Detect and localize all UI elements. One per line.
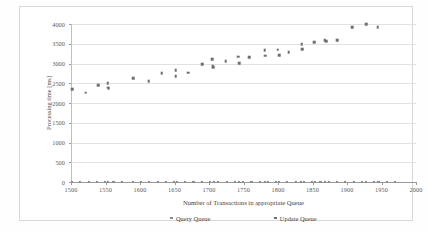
- data-point: [314, 180, 316, 182]
- data-point: [107, 181, 109, 183]
- gridline: [72, 83, 416, 84]
- data-point: [160, 72, 163, 75]
- data-point: [365, 180, 367, 182]
- legend-marker-icon: [170, 217, 173, 220]
- x-tick-label: 1550: [99, 186, 112, 193]
- x-tick-label: 1850: [306, 186, 319, 193]
- x-tick-mark: [347, 182, 348, 185]
- data-point: [276, 48, 279, 51]
- y-tick-mark: [69, 143, 71, 144]
- data-point: [263, 49, 266, 52]
- x-tick-mark: [382, 182, 383, 185]
- data-point: [87, 180, 89, 182]
- gridline: [72, 162, 416, 163]
- y-tick-mark: [69, 24, 71, 25]
- y-tick-label: 0: [62, 179, 65, 186]
- data-point: [96, 181, 98, 183]
- x-tick-mark: [313, 182, 314, 185]
- data-point: [156, 181, 158, 183]
- x-tick-label: 2000: [410, 186, 423, 193]
- gridline: [72, 143, 416, 144]
- data-point: [303, 180, 305, 182]
- x-tick-label: 1800: [272, 186, 285, 193]
- data-point: [336, 39, 339, 42]
- plot-area: [71, 24, 416, 182]
- x-tick-mark: [209, 182, 210, 185]
- y-tick-label: 3500: [52, 40, 65, 47]
- x-tick-mark: [140, 182, 141, 185]
- data-point: [97, 84, 100, 87]
- y-tick-label: 3000: [52, 60, 65, 67]
- data-point: [147, 80, 150, 83]
- data-point: [107, 82, 110, 85]
- x-tick-label: 1900: [341, 186, 354, 193]
- gridline: [72, 64, 416, 65]
- x-tick-label: 1950: [375, 186, 388, 193]
- data-point: [237, 55, 240, 58]
- x-axis-title: Number of Transactions in appropriate Qu…: [71, 199, 416, 206]
- data-point: [132, 77, 135, 80]
- data-point: [248, 56, 251, 59]
- data-point: [325, 40, 328, 43]
- data-point: [373, 181, 375, 183]
- legend-marker-icon: [274, 217, 277, 220]
- data-point: [225, 181, 227, 183]
- x-tick-mark: [278, 182, 279, 185]
- gridline: [72, 103, 416, 104]
- data-point: [394, 180, 396, 182]
- data-point: [287, 51, 290, 54]
- data-point: [217, 180, 219, 182]
- data-point: [184, 181, 186, 183]
- data-point: [187, 71, 190, 74]
- legend-item-update-queue[interactable]: Update Queue: [274, 215, 316, 222]
- scatter-chart: Processing time [ms] Number of Transacti…: [0, 0, 428, 232]
- data-point: [376, 26, 379, 29]
- data-point: [294, 180, 296, 182]
- x-tick-label: 1650: [168, 186, 181, 193]
- x-tick-label: 1700: [203, 186, 216, 193]
- gridline: [72, 44, 416, 45]
- data-point: [313, 41, 316, 44]
- data-point: [250, 181, 252, 183]
- legend-label: Query Queue: [176, 215, 210, 222]
- x-tick-mark: [71, 182, 72, 185]
- data-point: [192, 180, 194, 182]
- data-point: [238, 181, 240, 183]
- data-point: [225, 60, 228, 63]
- data-point: [278, 54, 281, 57]
- data-point: [351, 26, 354, 29]
- data-point: [361, 181, 363, 183]
- legend-item-query-queue[interactable]: Query Queue: [170, 215, 210, 222]
- y-tick-label: 1500: [52, 119, 65, 126]
- y-tick-label: 2500: [52, 80, 65, 87]
- data-point: [107, 87, 110, 90]
- data-point: [377, 180, 379, 182]
- data-point: [79, 181, 81, 183]
- data-point: [211, 58, 214, 61]
- gridline: [72, 123, 416, 124]
- data-point: [264, 55, 267, 58]
- data-point: [344, 181, 346, 183]
- y-tick-mark: [69, 83, 71, 84]
- data-point: [112, 180, 114, 182]
- y-tick-mark: [69, 64, 71, 65]
- data-point: [286, 181, 288, 183]
- data-point: [386, 181, 388, 183]
- x-tick-mark: [175, 182, 176, 185]
- chart-legend: Query Queue Update Queue: [71, 212, 416, 224]
- y-tick-label: 4000: [52, 21, 65, 28]
- data-point: [176, 180, 178, 182]
- data-point: [71, 88, 74, 91]
- data-point: [301, 48, 304, 51]
- data-point: [267, 180, 269, 182]
- data-point: [319, 181, 321, 183]
- data-point: [336, 180, 338, 182]
- data-point: [259, 180, 261, 182]
- x-tick-label: 1750: [237, 186, 250, 193]
- data-point: [213, 181, 215, 183]
- data-point: [300, 43, 303, 46]
- data-point: [174, 75, 177, 78]
- x-tick-mark: [106, 182, 107, 185]
- y-tick-label: 500: [55, 159, 65, 166]
- y-tick-label: 1000: [52, 139, 65, 146]
